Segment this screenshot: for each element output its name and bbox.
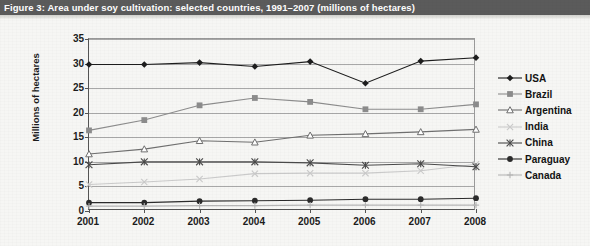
marker-square [141,117,147,123]
marker-diamond [307,58,314,65]
marker-diamond [196,59,203,66]
x-tick-label: 2005 [298,216,320,227]
legend-item-india[interactable]: India [497,119,587,135]
marker-plus [362,202,368,208]
legend-item-usa[interactable]: USA [497,70,587,86]
marker-square [418,106,424,112]
x-tick-label: 2003 [187,216,209,227]
x-tick-label: 2008 [464,216,486,227]
y-axis-title: Millions of hectares [30,53,41,142]
x-axis-tick-labels: 20012002200320042005200620072008 [88,214,475,230]
x-tick-mark [310,209,311,213]
marker-plus [252,202,258,208]
y-tick-label: 0 [78,205,84,216]
marker-diamond [362,80,369,87]
marker-circle [363,196,369,202]
legend-label: India [523,121,548,132]
marker-circle [473,195,479,201]
legend-key-brazil-icon [497,87,523,101]
legend-key-paraguay-icon [497,152,523,166]
y-tick-label: 15 [73,131,84,142]
legend-key-india-icon [497,120,523,134]
chart-legend: USABrazilArgentinaIndiaChinaParaguayCana… [497,70,587,183]
x-tick-mark [89,209,90,213]
x-tick-label: 2001 [77,216,99,227]
figure-container: Figure 3: Area under soy cultivation: se… [0,0,590,246]
legend-key-china-icon [497,136,523,150]
legend-item-argentina[interactable]: Argentina [497,102,587,118]
legend-key-usa-icon [497,71,523,85]
x-tick-mark [365,209,366,213]
figure-title-bar: Figure 3: Area under soy cultivation: se… [0,0,590,15]
series-line-brazil [89,98,476,130]
x-tick-label: 2006 [353,216,375,227]
marker-diamond [141,61,148,68]
marker-square [86,128,92,134]
legend-key-canada-icon [497,168,523,182]
marker-plus [473,202,479,208]
marker-plus [507,172,513,178]
marker-square [473,101,479,107]
legend-label: Paraguay [523,154,570,165]
x-tick-mark [200,209,201,213]
y-tick-label: 35 [73,33,84,44]
legend-label: Brazil [523,89,552,100]
legend-item-china[interactable]: China [497,135,587,151]
y-axis-tick-labels: 05101520253035 [52,38,84,210]
marker-plus [307,202,313,208]
y-tick-label: 10 [73,155,84,166]
x-tick-mark [476,209,477,213]
legend-key-argentina-icon [497,103,523,117]
y-tick-label: 25 [73,82,84,93]
marker-diamond [417,58,424,65]
marker-square [197,102,203,108]
marker-square [307,99,313,105]
marker-square [363,106,369,112]
marker-plus [418,202,424,208]
marker-diamond [473,54,480,61]
marker-diamond [507,75,514,82]
legend-label: Canada [523,170,561,181]
legend-label: Argentina [523,105,572,116]
series-lines [89,39,476,211]
x-tick-mark [144,209,145,213]
marker-square [252,95,258,101]
legend-item-brazil[interactable]: Brazil [497,86,587,102]
marker-diamond [252,63,259,70]
legend-item-canada[interactable]: Canada [497,167,587,183]
title-shadow [0,15,590,19]
marker-square [507,91,513,97]
marker-plus [196,202,202,208]
x-tick-mark [421,209,422,213]
legend-label: China [523,137,553,148]
marker-circle [507,156,513,162]
marker-circle [418,196,424,202]
y-tick-label: 30 [73,57,84,68]
marker-diamond [86,61,93,68]
plot-area [88,38,475,210]
x-tick-label: 2004 [243,216,265,227]
y-tick-label: 5 [78,180,84,191]
x-tick-mark [255,209,256,213]
x-tick-label: 2002 [132,216,154,227]
legend-label: USA [523,73,546,84]
y-tick-label: 20 [73,106,84,117]
legend-item-paraguay[interactable]: Paraguay [497,151,587,167]
x-tick-label: 2007 [409,216,431,227]
figure-title: Figure 3: Area under soy cultivation: se… [0,2,415,13]
